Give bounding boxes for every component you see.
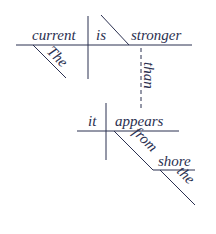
- word-than: than: [141, 62, 157, 89]
- word-stronger: stronger: [131, 27, 181, 43]
- sentence-diagram: current is stronger The than it appears …: [0, 0, 216, 234]
- word-is: is: [96, 27, 106, 43]
- word-current: current: [32, 27, 76, 43]
- word-it: it: [88, 113, 97, 129]
- word-the-subject-modifier: The: [44, 43, 71, 70]
